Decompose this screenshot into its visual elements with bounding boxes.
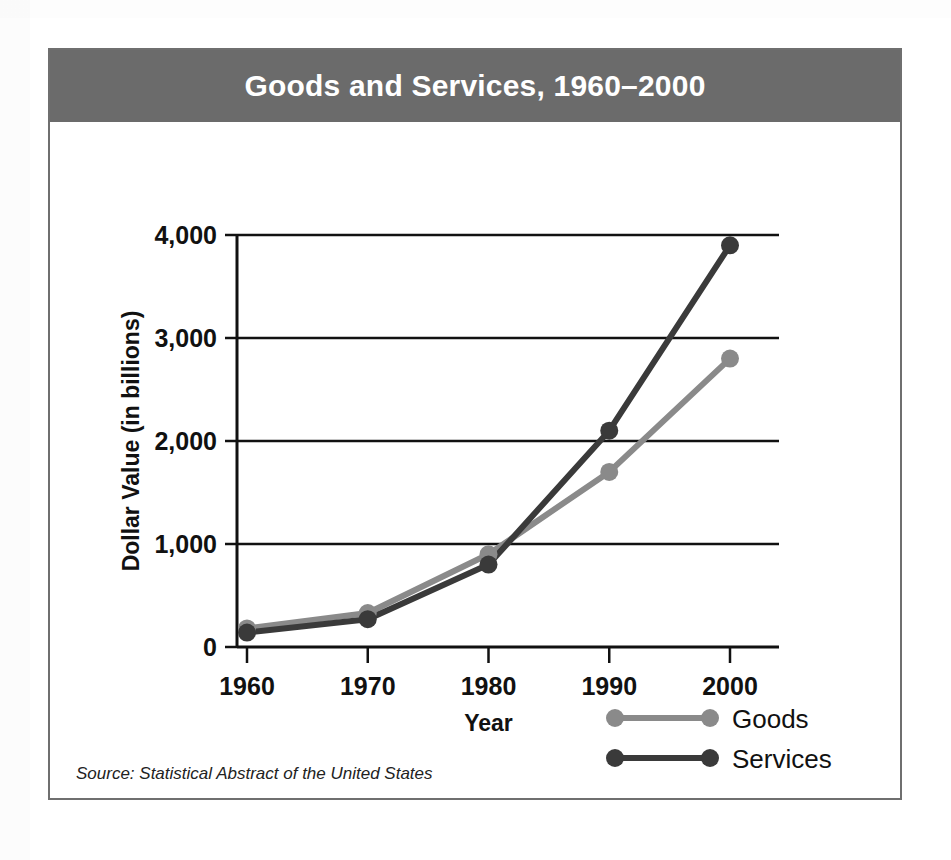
data-point-services-1960 bbox=[238, 624, 256, 642]
x-axis-title: Year bbox=[464, 710, 513, 736]
data-point-services-2000 bbox=[721, 236, 739, 254]
x-tick-label-1990: 1990 bbox=[581, 672, 637, 700]
y-tick-label-0: 0 bbox=[203, 633, 217, 661]
legend-marker-end-goods bbox=[701, 709, 719, 727]
x-tick-label-2000: 2000 bbox=[702, 672, 758, 700]
legend-label-goods: Goods bbox=[732, 704, 809, 734]
legend-label-services: Services bbox=[732, 744, 832, 774]
y-tick-label-2,000: 2,000 bbox=[154, 427, 217, 455]
legend-marker-end-services bbox=[701, 749, 719, 767]
line-chart: 01,0002,0003,0004,0001960197019801990200… bbox=[50, 122, 900, 800]
legend-marker-start-goods bbox=[606, 709, 624, 727]
y-tick-label-1,000: 1,000 bbox=[154, 530, 217, 558]
x-tick-label-1960: 1960 bbox=[219, 672, 275, 700]
chart-title-banner: Goods and Services, 1960–2000 bbox=[50, 50, 900, 122]
figure-frame: Goods and Services, 1960–2000 01,0002,00… bbox=[48, 48, 902, 800]
plot-area-wrapper: 01,0002,0003,0004,0001960197019801990200… bbox=[50, 122, 900, 800]
y-tick-label-3,000: 3,000 bbox=[154, 324, 217, 352]
x-tick-label-1980: 1980 bbox=[461, 672, 517, 700]
data-point-services-1980 bbox=[480, 556, 498, 574]
series-line-goods bbox=[247, 359, 730, 629]
legend-marker-start-services bbox=[606, 749, 624, 767]
y-axis-title: Dollar Value (in billions) bbox=[118, 311, 144, 572]
page-title: Goods and Services, 1960–2000 bbox=[244, 69, 705, 103]
y-tick-label-4,000: 4,000 bbox=[154, 221, 217, 249]
data-point-services-1970 bbox=[359, 610, 377, 628]
data-point-services-1990 bbox=[600, 422, 618, 440]
source-note: Source: Statistical Abstract of the Unit… bbox=[76, 764, 433, 784]
series-line-services bbox=[247, 245, 730, 632]
data-point-goods-2000 bbox=[721, 350, 739, 368]
data-point-goods-1990 bbox=[600, 463, 618, 481]
x-tick-label-1970: 1970 bbox=[340, 672, 396, 700]
